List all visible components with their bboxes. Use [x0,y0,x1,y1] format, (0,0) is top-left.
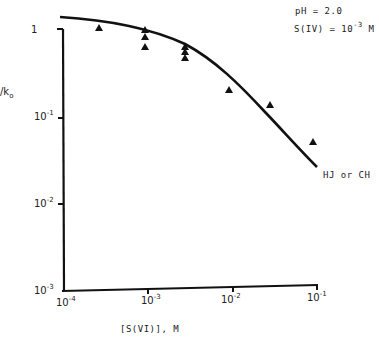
tick-exp: -4 [69,295,76,303]
triangle-marker [181,54,189,61]
triangle-marker [266,101,274,108]
y-axis-label-subscript: o [9,92,13,100]
data-points [95,24,317,145]
tick-base: 10 [34,111,47,122]
triangle-marker [225,86,233,93]
y-tick-label-1e-2: 10-2 [34,197,54,209]
tick-exp: -3 [47,283,54,291]
model-curve-hj-or-ch [60,17,317,167]
curve-label-hj-or-ch: HJ or CH [323,170,370,180]
annotation-ph: pH = 2.0 [295,6,342,16]
tick-exp: -1 [320,290,327,298]
siv-exp: -3 [353,21,362,29]
siv-text: S(IV) = 10 [294,24,353,34]
tick-exp: -3 [154,293,161,301]
tick-base: 10 [56,297,69,308]
x-tick-label-1e-1: 10-1 [307,291,327,303]
triangle-marker [309,138,317,145]
x-tick-label-1e-3: 10-3 [141,294,161,306]
x-tick-label-1e-4: 10-4 [56,296,76,308]
tick-exp: -1 [47,109,54,117]
y-axis [63,29,64,291]
y-axis-label-text: /k [0,86,9,97]
tick-base: 10 [34,285,47,296]
tick-base: 10 [221,294,234,305]
tick-base: 10 [141,295,154,306]
y-tick-label-1e-3: 10-3 [34,284,54,296]
tick-base: 10 [34,198,47,209]
siv-unit: M [363,24,375,34]
triangle-marker [95,24,103,31]
y-tick-label-1: 1 [31,24,37,35]
annotation-siv: S(IV) = 10-3 M [294,22,374,34]
y-axis-label: /ko [0,86,13,100]
x-axis [62,285,318,291]
triangle-marker [141,43,149,50]
x-axis-label: [S(VI)], M [120,324,179,334]
tick-base: 10 [307,292,320,303]
y-tick-label-1e-1: 10-1 [34,110,54,122]
tick-exp: -2 [234,292,241,300]
triangle-marker [141,33,149,40]
tick-exp: -2 [47,196,54,204]
x-tick-label-1e-2: 10-2 [221,293,241,305]
